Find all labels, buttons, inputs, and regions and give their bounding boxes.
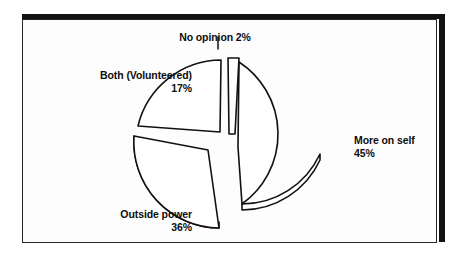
pie-label-both-volunteered: Both (Volunteered) 17% (24, 69, 192, 95)
figure-frame: No opinion 2% Both (Volunteered) 17% Out… (22, 14, 445, 248)
pie-label-both-volunteered-name: Both (Volunteered) (24, 69, 192, 82)
pie-slice-more-on-self (238, 62, 320, 210)
pie-label-outside-power-name: Outside power (24, 208, 192, 221)
pie-label-outside-power-percent: 36% (24, 221, 192, 234)
pie-slice-no-opinion (228, 58, 239, 134)
pie-slice-no-opinion-face (228, 58, 239, 134)
pie-slice-more-on-self-face (238, 62, 278, 204)
pie-label-more-on-self-percent: 45% (354, 147, 467, 160)
pie-label-outside-power: Outside power 36% (24, 208, 192, 234)
pie-label-more-on-self: More on self 45% (354, 134, 467, 160)
pie-label-no-opinion: No opinion 2% (150, 31, 280, 44)
pie-label-more-on-self-name: More on self (354, 134, 467, 147)
pie-label-both-volunteered-percent: 17% (24, 82, 192, 95)
pie-label-no-opinion-text: No opinion 2% (179, 31, 251, 43)
